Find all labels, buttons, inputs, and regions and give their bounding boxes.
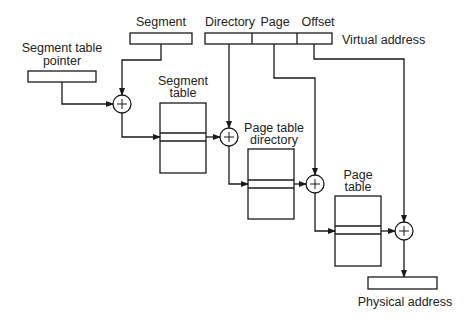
page-table-box [335,196,381,266]
virtual-address-label: Virtual address [342,33,425,47]
adder-2-icon [220,128,238,146]
physical-address-label: Physical address [355,295,455,309]
segment-table-label-2: table [153,86,213,100]
segment-table-pointer-label-2: pointer [12,54,112,68]
adder-1-icon [113,95,131,113]
adder-3-to-page-table-line [315,193,335,231]
offset-to-adder-4-line [314,44,404,222]
segment-register-box [130,33,192,44]
adder-1-to-segment-table-line [122,113,160,137]
segment-table-box [160,103,206,173]
segment-table-pointer-box [28,71,96,82]
pointer-to-adder-1-line [62,82,113,104]
page-table-directory-label-2: directory [241,133,307,147]
adder-3-icon [306,175,324,193]
page-label: Page [258,15,292,29]
directory-label: Directory [204,15,256,29]
segment-table-pointer-label-1: Segment table [12,41,112,55]
virtual-address-box [205,33,332,44]
adder-2-to-directory-line [229,146,248,184]
segment-label: Segment [130,15,192,29]
offset-label: Offset [297,15,339,29]
page-table-label-2: table [328,180,388,194]
page-table-directory-box [248,149,294,219]
physical-address-box [368,277,437,289]
adder-4-icon [395,222,413,240]
